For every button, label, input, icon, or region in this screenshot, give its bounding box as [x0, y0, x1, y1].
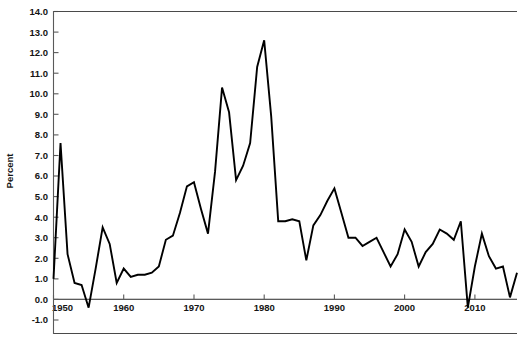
chart-container: Percent 14.013.012.011.010.09.08.07.06.0…	[0, 0, 518, 341]
y-tick-label: 7.0	[35, 150, 48, 161]
y-axis-label: Percent	[4, 153, 15, 189]
x-tick-label: 1950	[52, 302, 73, 313]
y-axis-label-text: Percent	[4, 153, 15, 189]
x-tick-label: 1990	[324, 302, 345, 313]
y-tick-label: 9.0	[35, 109, 48, 120]
y-tick-label: 10.0	[30, 88, 49, 99]
x-tick-label: 1970	[183, 302, 204, 313]
x-tick-label: 1980	[254, 302, 275, 313]
y-tick-label: 13.0	[30, 27, 49, 38]
y-tick-label: 14.0	[30, 6, 49, 17]
y-tick-label: 4.0	[35, 212, 48, 223]
y-tick-label: 11.0	[30, 68, 48, 79]
y-tick-label: -1.0	[32, 314, 48, 325]
chart-background	[0, 0, 518, 341]
y-tick-label: 5.0	[35, 191, 48, 202]
y-tick-label: 3.0	[35, 232, 48, 243]
inflation-line-chart: Percent 14.013.012.011.010.09.08.07.06.0…	[0, 0, 518, 341]
y-tick-label: 1.0	[35, 273, 48, 284]
y-tick-label: 6.0	[35, 170, 48, 181]
x-tick-label: 1960	[113, 302, 134, 313]
y-tick-label: 0.0	[35, 294, 48, 305]
y-tick-label: 2.0	[35, 253, 48, 264]
x-tick-label: 2000	[394, 302, 415, 313]
y-tick-label: 8.0	[35, 129, 48, 140]
y-tick-label: 12.0	[30, 47, 49, 58]
